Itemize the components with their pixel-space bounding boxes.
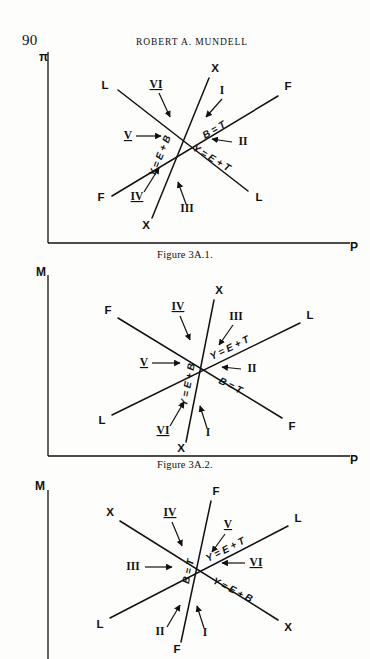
arrow-region-IV bbox=[180, 316, 190, 340]
region-label-IV: IV bbox=[172, 300, 185, 312]
curve-label-y-equals-e-plus-b: Y = E + B bbox=[211, 575, 254, 604]
arrow-region-II bbox=[212, 139, 232, 142]
figure-3a-1: L L F F X X Y = E + B B = T Y = E + T I … bbox=[0, 44, 370, 256]
arrow-region-I bbox=[206, 99, 222, 117]
X-schedule-line bbox=[120, 521, 278, 620]
curve-label-b-equals-t: B = T bbox=[200, 118, 228, 141]
curve-label-y-equals-e-plus-b: Y = E + B bbox=[146, 134, 172, 178]
region-label-II: II bbox=[248, 362, 257, 374]
label-X-upper-right: X bbox=[215, 284, 223, 296]
region-label-III: III bbox=[126, 560, 140, 572]
axis-label-y-fig1: π bbox=[39, 50, 48, 64]
arrow-region-IV bbox=[172, 522, 182, 546]
region-label-V: V bbox=[224, 518, 233, 530]
label-X-upper-left: X bbox=[106, 506, 114, 518]
curve-label-y-equals-e-plus-t: Y = E + T bbox=[191, 142, 233, 174]
region-label-VI: VI bbox=[250, 556, 263, 568]
arrow-region-VI bbox=[159, 93, 170, 117]
label-X-lower-left: X bbox=[177, 442, 185, 454]
label-L-upper-left: L bbox=[101, 79, 108, 91]
figure-1-caption: Figure 3A.1. bbox=[0, 249, 370, 260]
region-label-V: V bbox=[124, 129, 133, 141]
axis-label-y-fig2: M bbox=[36, 265, 46, 279]
figure-3a-1-canvas: L L F F X X Y = E + B B = T Y = E + T I … bbox=[0, 44, 370, 256]
region-label-I: I bbox=[220, 84, 225, 96]
region-label-IV: IV bbox=[131, 190, 144, 202]
region-label-V: V bbox=[140, 356, 149, 368]
figure-3a-2-canvas: F F L L X X Y = E + B Y = E + T B = T I … bbox=[0, 262, 370, 474]
axis-label-y-fig3: M bbox=[35, 479, 45, 493]
label-F-upper-right: F bbox=[284, 80, 291, 92]
region-label-IV: IV bbox=[164, 506, 177, 518]
figure-3a-3-canvas: X X L L F F B = T Y = E + T Y = E + B I … bbox=[0, 478, 370, 659]
curve-label-y-equals-e-plus-t: Y = E + T bbox=[204, 534, 247, 563]
figure-2-caption: Figure 3A.2. bbox=[0, 459, 370, 470]
region-label-VI: VI bbox=[157, 424, 170, 436]
label-X-lower-right: X bbox=[284, 621, 292, 633]
figure-3a-3: X X L L F F B = T Y = E + T Y = E + B I … bbox=[0, 478, 370, 659]
label-L-upper-right: L bbox=[294, 512, 301, 524]
arrow-region-I bbox=[197, 606, 204, 628]
label-L-upper-right: L bbox=[306, 309, 313, 321]
arrow-region-VI bbox=[170, 402, 184, 426]
label-L-lower-left: L bbox=[96, 618, 103, 630]
document-page: 90 ROBERT A. MUNDELL L L F F X X bbox=[0, 0, 370, 659]
region-label-III: III bbox=[180, 202, 194, 214]
region-label-VI: VI bbox=[150, 78, 163, 90]
figure-3a-2: F F L L X X Y = E + B Y = E + T B = T I … bbox=[0, 262, 370, 474]
arrow-region-III bbox=[178, 182, 186, 204]
label-F-upper-right: F bbox=[212, 485, 219, 497]
region-label-III: III bbox=[229, 310, 243, 322]
arrow-region-II bbox=[167, 605, 180, 627]
label-L-lower-left: L bbox=[98, 414, 105, 426]
region-label-II: II bbox=[156, 625, 165, 637]
region-label-II: II bbox=[239, 135, 248, 147]
label-X-upper-right: X bbox=[211, 62, 219, 74]
label-L-lower-right: L bbox=[255, 191, 262, 203]
arrow-region-I bbox=[200, 406, 207, 428]
label-F-lower-right: F bbox=[288, 420, 295, 432]
label-F-lower-left: F bbox=[97, 191, 104, 203]
label-X-lower-left: X bbox=[142, 219, 150, 231]
arrow-region-II bbox=[222, 367, 241, 369]
label-F-lower-left: F bbox=[173, 643, 180, 655]
L-schedule-line bbox=[110, 526, 288, 618]
label-F-upper-left: F bbox=[104, 304, 111, 316]
